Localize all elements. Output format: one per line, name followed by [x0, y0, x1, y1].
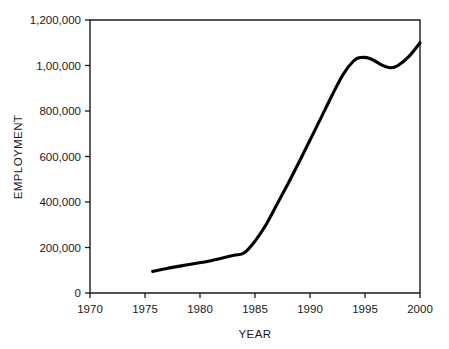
chart-figure: 0200,000400,000600,000800,0001,00,0001,2… — [0, 0, 449, 349]
x-tick-label: 1975 — [132, 303, 158, 315]
x-tick-label: 1995 — [352, 303, 378, 315]
y-tick-label: 800,000 — [39, 105, 81, 117]
y-tick-label: 0 — [75, 287, 81, 299]
y-tick-label: 400,000 — [39, 196, 81, 208]
x-tick-label: 2000 — [407, 303, 433, 315]
y-tick-label: 200,000 — [39, 242, 81, 254]
y-tick-label: 1,200,000 — [30, 14, 81, 26]
employment-line-chart: 0200,000400,000600,000800,0001,00,0001,2… — [0, 0, 449, 349]
y-tick-label: 600,000 — [39, 151, 81, 163]
x-tick-label: 1970 — [77, 303, 103, 315]
x-axis-title: YEAR — [239, 328, 272, 340]
y-tick-label: 1,00,000 — [36, 60, 81, 72]
x-tick-label: 1990 — [297, 303, 323, 315]
x-tick-label: 1985 — [242, 303, 268, 315]
y-axis-title: EMPLOYMENT — [12, 115, 24, 200]
x-tick-label: 1980 — [187, 303, 213, 315]
plot-area — [90, 20, 420, 293]
